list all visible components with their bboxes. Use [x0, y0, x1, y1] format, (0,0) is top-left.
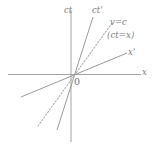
minkowski-diagram-figure: ct ct' v=c (ct=x) x' x 0: [0, 0, 156, 149]
x-prime-axis-line: [21, 53, 127, 97]
origin-label: 0: [74, 77, 80, 87]
light-cone-relation-label: (ct=x): [107, 31, 134, 40]
diagram-canvas: [0, 0, 156, 149]
x-prime-axis-label: x': [128, 48, 135, 57]
ct-prime-axis-line: [57, 17, 93, 130]
x-axis-label: x: [142, 68, 147, 77]
ct-prime-axis-label: ct': [92, 6, 103, 15]
ct-axis-label: ct: [64, 6, 72, 15]
light-speed-label: v=c: [110, 18, 127, 27]
